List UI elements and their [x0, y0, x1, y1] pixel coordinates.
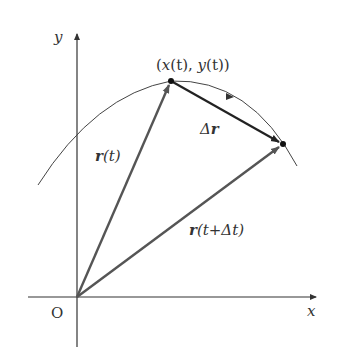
point-t — [168, 78, 174, 84]
x-axis-label: x — [307, 302, 316, 320]
point-coordinate-label: (x(t), y(t)) — [156, 56, 230, 74]
point-t-plus-dt — [280, 141, 286, 147]
vector-delta-r — [171, 81, 279, 142]
vector-r-t-plus-dt-label: r(t+Δt) — [189, 221, 244, 239]
vector-r-t-plus-dt — [77, 147, 279, 297]
y-axis-label: y — [53, 28, 63, 46]
origin-label: O — [51, 304, 63, 322]
motion-diagram: y x O (x(t), y(t)) r(t) Δr r(t+Δt) — [0, 0, 337, 355]
vector-r-t-label: r(t) — [95, 147, 121, 165]
vector-r-t — [77, 85, 169, 297]
vector-delta-r-label: Δr — [199, 120, 220, 138]
